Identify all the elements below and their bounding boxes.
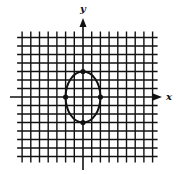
vertex-point [80,120,85,125]
vertex-point [98,94,103,99]
axes [10,18,162,170]
y-axis-label: y [79,3,87,14]
vertex-point [63,94,68,99]
x-axis-arrow-icon [153,94,162,101]
ellipse-graph: x y [0,0,180,174]
y-axis-arrow-icon [80,18,87,27]
vertex-point [80,69,85,74]
x-axis-label: x [165,91,173,102]
